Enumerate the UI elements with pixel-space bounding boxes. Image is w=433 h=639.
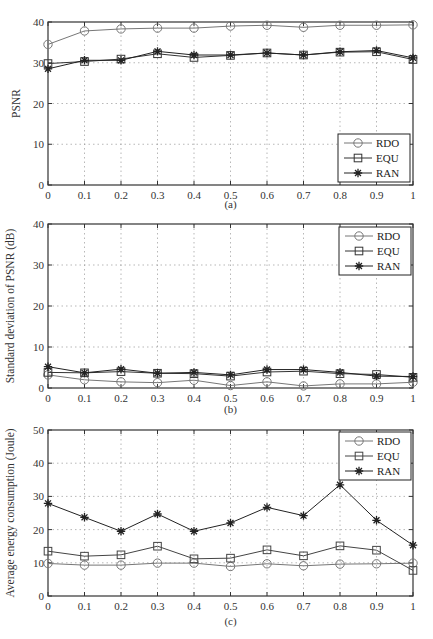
panel-caption: (c) bbox=[224, 615, 237, 628]
y-tick-label: 40 bbox=[33, 218, 45, 230]
y-tick-label: 0 bbox=[39, 179, 45, 191]
star-marker-icon bbox=[44, 499, 52, 507]
star-marker-icon bbox=[153, 510, 161, 518]
y-tick-label: 30 bbox=[33, 490, 45, 502]
star-marker-icon bbox=[190, 368, 198, 376]
star-legend-icon bbox=[355, 262, 363, 270]
panel-caption: (b) bbox=[224, 403, 237, 416]
star-marker-icon bbox=[372, 46, 380, 54]
star-marker-icon bbox=[80, 369, 88, 377]
y-tick-label: 0 bbox=[39, 590, 45, 602]
figure-canvas: 00.10.20.30.40.50.60.70.80.91010203040PS… bbox=[0, 0, 433, 639]
x-tick-label: 0.8 bbox=[333, 600, 347, 612]
y-axis-label: Standard deviation of PSNR (dB) bbox=[4, 229, 17, 384]
star-marker-icon bbox=[372, 372, 380, 380]
chart-panel-b: 00.10.20.30.40.50.60.70.80.91010203040St… bbox=[4, 218, 417, 416]
legend-label: EQU bbox=[377, 245, 400, 257]
legend: RDOEQURAN bbox=[339, 227, 411, 275]
x-tick-label: 0.2 bbox=[114, 600, 128, 612]
legend: RDOEQURAN bbox=[339, 432, 411, 480]
panel-caption: (a) bbox=[224, 198, 237, 211]
star-marker-icon bbox=[336, 48, 344, 56]
y-tick-label: 30 bbox=[33, 57, 45, 69]
x-tick-label: 0.7 bbox=[297, 189, 311, 201]
series-equ bbox=[44, 542, 417, 574]
legend-label: RDO bbox=[377, 230, 400, 242]
star-marker-icon bbox=[226, 371, 234, 379]
y-tick-label: 0 bbox=[39, 382, 45, 394]
legend-label: RAN bbox=[377, 465, 400, 477]
x-tick-label: 0.7 bbox=[297, 600, 311, 612]
star-marker-icon bbox=[117, 56, 125, 64]
y-tick-label: 10 bbox=[33, 138, 45, 150]
legend: RDOEQURAN bbox=[338, 134, 410, 182]
y-tick-label: 20 bbox=[33, 524, 45, 536]
x-tick-label: 0.6 bbox=[260, 189, 274, 201]
star-marker-icon bbox=[190, 51, 198, 59]
star-marker-icon bbox=[409, 372, 417, 380]
x-tick-label: 0.3 bbox=[151, 189, 165, 201]
x-tick-label: 0 bbox=[45, 189, 51, 201]
x-tick-label: 0 bbox=[45, 600, 51, 612]
x-tick-label: 0.4 bbox=[187, 600, 201, 612]
x-tick-label: 0.4 bbox=[187, 392, 201, 404]
legend-label: RDO bbox=[376, 137, 399, 149]
x-tick-label: 0.9 bbox=[370, 189, 384, 201]
y-axis-label: Average energy consumption (Joule) bbox=[4, 428, 17, 597]
star-marker-icon bbox=[80, 513, 88, 521]
chart-panel-a: 00.10.20.30.40.50.60.70.80.91010203040PS… bbox=[10, 16, 417, 211]
chart-panel-c: 00.10.20.30.40.50.60.70.80.9101020304050… bbox=[4, 424, 417, 628]
x-tick-label: 0.7 bbox=[297, 392, 311, 404]
x-tick-label: 0.2 bbox=[114, 392, 128, 404]
legend-label: RAN bbox=[376, 167, 399, 179]
star-marker-icon bbox=[263, 365, 271, 373]
legend-label: EQU bbox=[377, 450, 400, 462]
y-tick-label: 20 bbox=[33, 300, 45, 312]
star-marker-icon bbox=[117, 527, 125, 535]
star-marker-icon bbox=[153, 369, 161, 377]
series-ran bbox=[44, 362, 417, 380]
x-tick-label: 1 bbox=[410, 189, 416, 201]
star-marker-icon bbox=[44, 65, 52, 73]
legend-label: RAN bbox=[377, 260, 400, 272]
star-marker-icon bbox=[226, 519, 234, 527]
x-tick-label: 0.3 bbox=[151, 392, 165, 404]
y-tick-label: 30 bbox=[33, 259, 45, 271]
x-tick-label: 0.1 bbox=[78, 600, 92, 612]
star-marker-icon bbox=[409, 54, 417, 62]
x-tick-label: 0.9 bbox=[370, 600, 384, 612]
x-tick-label: 0.8 bbox=[333, 392, 347, 404]
star-marker-icon bbox=[153, 47, 161, 55]
star-marker-icon bbox=[226, 51, 234, 59]
x-tick-label: 0.1 bbox=[78, 392, 92, 404]
star-marker-icon bbox=[299, 365, 307, 373]
star-marker-icon bbox=[299, 511, 307, 519]
y-axis-label: PSNR bbox=[10, 89, 22, 118]
star-legend-icon bbox=[354, 169, 362, 177]
star-marker-icon bbox=[80, 56, 88, 64]
y-tick-label: 40 bbox=[33, 457, 45, 469]
y-tick-label: 50 bbox=[33, 424, 45, 436]
x-tick-label: 0.3 bbox=[151, 600, 165, 612]
x-tick-label: 0.4 bbox=[187, 189, 201, 201]
legend-label: EQU bbox=[376, 152, 399, 164]
x-tick-label: 1 bbox=[410, 600, 416, 612]
x-tick-label: 0.6 bbox=[260, 392, 274, 404]
star-marker-icon bbox=[263, 503, 271, 511]
x-tick-label: 0.9 bbox=[370, 392, 384, 404]
star-marker-icon bbox=[263, 49, 271, 57]
x-tick-label: 0.2 bbox=[114, 189, 128, 201]
x-tick-label: 0.8 bbox=[333, 189, 347, 201]
series-line bbox=[48, 563, 413, 566]
y-tick-label: 10 bbox=[33, 341, 45, 353]
star-marker-icon bbox=[117, 365, 125, 373]
y-tick-label: 20 bbox=[33, 98, 45, 110]
x-tick-label: 1 bbox=[410, 392, 416, 404]
star-marker-icon bbox=[44, 362, 52, 370]
star-marker-icon bbox=[336, 368, 344, 376]
x-tick-label: 0.1 bbox=[78, 189, 92, 201]
star-marker-icon bbox=[336, 481, 344, 489]
star-marker-icon bbox=[409, 541, 417, 549]
star-legend-icon bbox=[355, 467, 363, 475]
x-tick-label: 0 bbox=[45, 392, 51, 404]
